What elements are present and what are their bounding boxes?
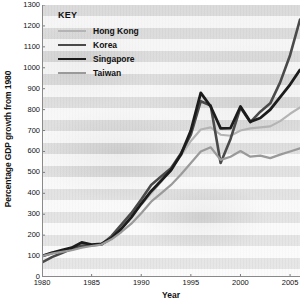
y-tick-label: 100 [18, 252, 40, 260]
legend-item-label: Taiwan [93, 68, 121, 78]
legend-item-label: Hong Kong [93, 26, 139, 36]
y-tick-label: 300 [18, 210, 40, 218]
legend-swatch-icon [58, 30, 86, 32]
y-tick-label: 800 [18, 106, 40, 114]
y-axis-title-label: Percentage GDP growth from 1980 [3, 70, 13, 207]
y-axis-tick-labels: 0100200300400500600700800900100011001200… [14, 0, 40, 305]
y-tick-label: 200 [18, 231, 40, 239]
x-tick-label: 2005 [282, 279, 299, 287]
x-axis-title: Year [42, 290, 300, 300]
y-tick-label: 1100 [18, 43, 40, 51]
y-tick-label: 1200 [18, 22, 40, 30]
x-tick-label: 1980 [34, 279, 51, 287]
y-tick-label: 1000 [18, 64, 40, 72]
y-tick-label: 1300 [18, 1, 40, 9]
x-tick-label: 1990 [133, 279, 150, 287]
y-tick-label: 700 [18, 127, 40, 135]
x-tick-label: 2000 [232, 279, 249, 287]
legend-swatch-icon [58, 72, 86, 74]
y-tick-label: 500 [18, 169, 40, 177]
series-line-singapore [42, 70, 300, 256]
legend-item-taiwan: Taiwan [58, 66, 178, 80]
legend-item-singapore: Singapore [58, 52, 178, 66]
legend-item-label: Singapore [93, 54, 135, 64]
legend-item-hong-kong: Hong Kong [58, 24, 178, 38]
legend-items: Hong KongKoreaSingaporeTaiwan [58, 24, 178, 80]
series-line-taiwan [42, 147, 300, 256]
y-tick-label: 900 [18, 85, 40, 93]
y-tick-label: 600 [18, 148, 40, 156]
x-tick-label: 1985 [83, 279, 100, 287]
legend-swatch-icon [58, 58, 86, 61]
series-line-hong-kong [42, 108, 300, 257]
chart-legend: KEY Hong KongKoreaSingaporeTaiwan [58, 10, 178, 80]
legend-item-label: Korea [93, 40, 117, 50]
y-tick-label: 400 [18, 190, 40, 198]
legend-item-korea: Korea [58, 38, 178, 52]
legend-title: KEY [58, 10, 178, 20]
legend-swatch-icon [58, 44, 86, 47]
x-tick-label: 1995 [183, 279, 200, 287]
gdp-growth-line-chart: Percentage GDP growth from 1980 01002003… [0, 0, 307, 305]
